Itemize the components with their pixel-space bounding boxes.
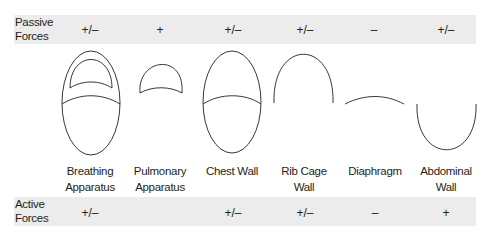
pulmonary-line2: Apparatus — [120, 179, 200, 195]
breathing-line1: Breathing — [50, 163, 130, 179]
active-chest-wall-value: +/– — [213, 206, 253, 220]
active-diaphragm-value: – — [355, 206, 395, 220]
active-label-line2: Forces — [15, 212, 48, 226]
rib-cage-line2: Wall — [264, 179, 344, 195]
label-abdominal-wall: Abdominal Wall — [406, 163, 486, 195]
rib-cage-wall-diagram — [274, 54, 333, 103]
abdominal-line1: Abdominal — [406, 163, 486, 179]
abdominal-wall-diagram — [417, 104, 476, 150]
pulmonary-apparatus-diagram — [140, 64, 182, 93]
active-abdominal-value: + — [426, 206, 466, 220]
pulmonary-line1: Pulmonary — [120, 163, 200, 179]
breathing-line2: Apparatus — [50, 179, 130, 195]
chest-wall-diagram — [203, 51, 261, 153]
breathing-apparatus-diagram — [62, 51, 120, 155]
label-pulmonary-apparatus: Pulmonary Apparatus — [120, 163, 200, 195]
label-diaphragm: Diaphragm — [335, 163, 415, 179]
abdominal-line2: Wall — [406, 179, 486, 195]
active-breathing-value: +/– — [70, 206, 110, 220]
rib-cage-line1: Rib Cage — [264, 163, 344, 179]
label-breathing-apparatus: Breathing Apparatus — [50, 163, 130, 195]
diaphragm-line1: Diaphragm — [335, 163, 415, 179]
active-label-line1: Active — [15, 198, 48, 212]
chest-wall-line1: Chest Wall — [192, 163, 272, 179]
active-forces-label: Active Forces — [15, 198, 48, 225]
label-rib-cage-wall: Rib Cage Wall — [264, 163, 344, 195]
diaphragm-diagram — [345, 97, 404, 105]
active-rib-cage-value: +/– — [285, 206, 325, 220]
label-chest-wall: Chest Wall — [192, 163, 272, 179]
